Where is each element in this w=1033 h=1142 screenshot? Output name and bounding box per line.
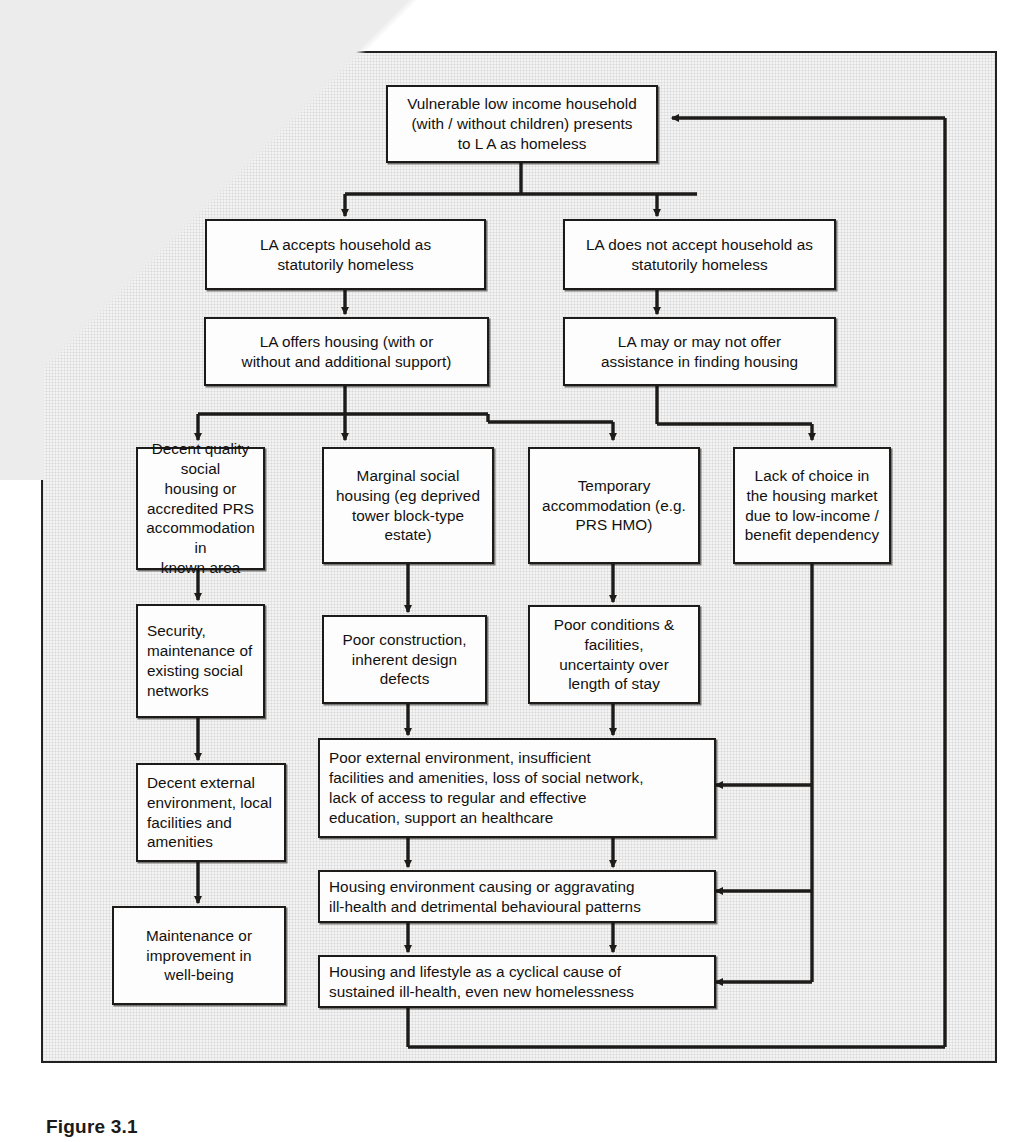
node-line: (with / without children) presents [411, 115, 632, 132]
node-temporary-accommodation: Temporary accommodation (e.g. PRS HMO) [528, 447, 700, 564]
node-line: tower block-type [352, 507, 464, 524]
node-line: LA accepts household as [260, 236, 431, 253]
node-line: Marginal social [357, 467, 460, 484]
node-line: Vulnerable low income household [407, 95, 637, 112]
node-line: education, support an healthcare [329, 809, 553, 826]
node-line: the housing market [747, 487, 878, 504]
node-line: Decent external [147, 774, 255, 791]
node-marginal-social-housing: Marginal social housing (eg deprived tow… [322, 447, 494, 564]
node-la-offers-housing: LA offers housing (with or without and a… [204, 317, 489, 386]
node-line: LA does not accept household as [586, 236, 813, 253]
node-la-may-offer-assistance: LA may or may not offer assistance in fi… [563, 317, 836, 386]
node-la-does-not-accept: LA does not accept household as statutor… [563, 219, 836, 290]
node-line: benefit dependency [745, 526, 879, 543]
node-line: housing or [165, 480, 237, 497]
node-line: amenities [147, 833, 213, 850]
node-line: PRS HMO) [576, 516, 653, 533]
node-line: environment, local [147, 794, 272, 811]
node-line: facilities and [147, 814, 232, 831]
node-security-maintenance: Security, maintenance of existing social… [136, 604, 265, 718]
node-line: Security, [147, 622, 206, 639]
node-poor-construction: Poor construction, inherent design defec… [322, 615, 487, 704]
node-line: Housing environment causing or aggravati… [329, 878, 635, 895]
node-housing-lifestyle-cyclical-cause: Housing and lifestyle as a cyclical caus… [318, 955, 716, 1008]
node-line: ill-health and detrimental behavioural p… [329, 898, 641, 915]
node-maintenance-improvement-wellbeing: Maintenance or improvement in well-being [112, 906, 286, 1005]
node-line: Decent quality social [152, 440, 250, 477]
node-line: Poor conditions & [554, 616, 675, 633]
node-line: Poor construction, [342, 631, 466, 648]
node-line: without and additional support) [242, 353, 452, 370]
node-line: accommodation in [146, 519, 255, 556]
node-line: LA offers housing (with or [260, 333, 434, 350]
node-line: statutorily homeless [631, 256, 767, 273]
node-decent-quality-social-housing: Decent quality social housing or accredi… [136, 447, 265, 570]
node-line: housing (eg deprived [336, 487, 480, 504]
node-line: sustained ill-health, even new homelessn… [329, 983, 634, 1000]
node-line: Maintenance or [146, 927, 252, 944]
node-poor-conditions: Poor conditions & facilities, uncertaint… [528, 605, 700, 704]
node-line: lack of access to regular and effective [329, 789, 587, 806]
scanned-page: Vulnerable low income household (with / … [0, 0, 1033, 1142]
node-line: Housing and lifestyle as a cyclical caus… [329, 963, 621, 980]
node-line: accommodation (e.g. [542, 497, 686, 514]
node-line: assistance in finding housing [601, 353, 798, 370]
node-housing-environment-ill-health: Housing environment causing or aggravati… [318, 870, 716, 923]
node-line: existing social [147, 662, 243, 679]
node-line: improvement in [146, 947, 251, 964]
node-line: defects [380, 670, 430, 687]
node-line: estate) [384, 526, 431, 543]
node-line: Temporary [578, 477, 651, 494]
node-line: maintenance of [147, 642, 252, 659]
scan-left-edge [0, 150, 44, 480]
node-line: accredited PRS [147, 500, 254, 517]
node-line: well-being [164, 966, 233, 983]
node-line: networks [147, 682, 209, 699]
node-poor-external-environment: Poor external environment, insufficient … [318, 738, 716, 838]
node-line: LA may or may not offer [618, 333, 781, 350]
node-line: due to low-income / [745, 507, 879, 524]
node-line: statutorily homeless [277, 256, 413, 273]
node-line: facilities, [584, 636, 643, 653]
node-line: Poor external environment, insufficient [329, 749, 591, 766]
node-line: uncertainty over [559, 656, 669, 673]
node-line: length of stay [568, 675, 660, 692]
node-decent-external-environment: Decent external environment, local facil… [136, 763, 286, 862]
node-line: known area [161, 559, 241, 576]
node-line: facilities and amenities, loss of social… [329, 769, 643, 786]
node-vulnerable-household: Vulnerable low income household (with / … [386, 85, 658, 163]
figure-caption: Figure 3.1 [46, 1116, 138, 1138]
node-line: inherent design [352, 651, 457, 668]
node-la-accepts: LA accepts household as statutorily home… [205, 219, 486, 290]
node-lack-of-choice: Lack of choice in the housing market due… [733, 447, 891, 564]
node-line: to L A as homeless [458, 135, 587, 152]
node-line: Lack of choice in [755, 467, 870, 484]
